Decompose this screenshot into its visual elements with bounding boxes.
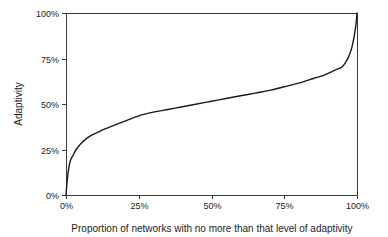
x-axis-title: Proportion of networks with no more than… bbox=[71, 223, 352, 234]
cdf-line-chart: 0%25%50%75%100% 0%25%50%75%100% Proporti… bbox=[0, 0, 388, 237]
y-tick-label: 75% bbox=[41, 55, 59, 65]
y-tick-label: 100% bbox=[36, 9, 59, 19]
chart-container: 0%25%50%75%100% 0%25%50%75%100% Proporti… bbox=[0, 0, 388, 237]
x-tick-label: 25% bbox=[130, 201, 148, 211]
y-tick-label: 25% bbox=[41, 146, 59, 156]
x-tick-label: 0% bbox=[60, 201, 73, 211]
y-tick-label: 50% bbox=[41, 100, 59, 110]
x-tick-label: 50% bbox=[203, 201, 221, 211]
x-tick-label: 75% bbox=[275, 201, 293, 211]
y-tick-label: 0% bbox=[46, 191, 59, 201]
y-axis-title: Adaptivity bbox=[13, 82, 24, 125]
chart-background bbox=[0, 0, 388, 237]
x-tick-label: 100% bbox=[346, 201, 369, 211]
